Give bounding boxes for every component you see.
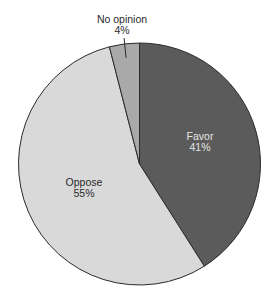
slice-label-favor: Favor41% [187, 130, 214, 153]
slice-label-no-opinion: No opinion4% [97, 13, 147, 36]
pie-chart: Favor41%Oppose55%No opinion4% [0, 0, 278, 294]
pie-slices [19, 43, 261, 285]
